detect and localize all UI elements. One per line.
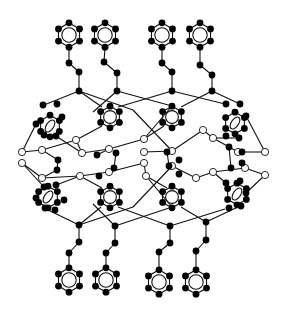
molecular-framework-diagram: [0, 0, 287, 312]
ring-atom: [54, 188, 61, 195]
ring-atom: [55, 38, 62, 45]
aromatic-ring-icon: [99, 273, 113, 287]
ring-atom: [91, 38, 98, 45]
filled-atom: [59, 114, 66, 121]
bond: [109, 139, 144, 149]
ring-atom: [112, 38, 119, 45]
filled-atom: [239, 149, 246, 156]
chain-atom: [159, 60, 166, 67]
ring-atom: [103, 264, 110, 271]
chain-atom: [114, 70, 121, 77]
filled-atom: [41, 132, 48, 139]
bond: [42, 140, 76, 150]
chain-atom: [169, 88, 176, 95]
bond: [206, 206, 240, 222]
chain-atom: [203, 219, 210, 226]
open-atom: [209, 134, 216, 141]
ring-atom: [66, 44, 73, 51]
aromatic-ring-icon: [98, 28, 112, 42]
filled-atom: [237, 101, 244, 108]
filled-atom: [176, 171, 183, 178]
open-atom: [140, 159, 147, 166]
ring-atom: [178, 199, 185, 206]
ring-atom: [232, 109, 239, 116]
chain-atom: [76, 88, 83, 95]
filled-atom: [239, 160, 246, 167]
aromatic-ring-icon: [193, 28, 207, 42]
filled-atom: [223, 101, 230, 108]
filled-atom: [33, 195, 40, 202]
aromatic-ring-icon: [155, 28, 169, 42]
ring-atom: [97, 108, 104, 115]
ring-atom: [107, 183, 114, 190]
ring-atom: [113, 283, 120, 290]
aromatic-ring-icon: [152, 275, 166, 289]
open-atom: [209, 168, 216, 175]
ring-atom: [55, 26, 62, 33]
ring-atom: [116, 188, 123, 195]
open-atom: [261, 148, 268, 155]
bond: [172, 130, 203, 151]
ring-atom: [159, 119, 166, 126]
ring-atom: [203, 273, 210, 280]
ring-atom: [116, 119, 123, 126]
ring-atom: [169, 26, 176, 33]
ring-atom: [113, 271, 120, 278]
bond: [213, 138, 238, 152]
ring-atom: [116, 199, 123, 206]
ring-atom: [186, 26, 193, 33]
chain-atom: [76, 222, 83, 229]
filled-atom: [223, 180, 230, 187]
aromatic-ring-icon: [189, 275, 203, 289]
ring-atom: [207, 38, 214, 45]
open-atom: [142, 172, 149, 179]
filled-atom: [94, 152, 101, 159]
filled-atom: [243, 113, 250, 120]
ring-atom: [107, 124, 114, 131]
aromatic-ring-icon: [166, 191, 179, 204]
open-atom: [140, 135, 147, 142]
filled-atom: [53, 133, 60, 140]
chain-atom: [209, 72, 216, 79]
open-atom: [199, 126, 206, 133]
bond: [79, 207, 101, 225]
filled-atom: [53, 182, 60, 189]
aromatic-ring-icon: [62, 273, 76, 287]
ring-atom: [55, 283, 62, 290]
ring-atom: [66, 264, 73, 271]
filled-atom: [41, 184, 48, 191]
ring-atom: [169, 103, 176, 110]
filled-atom: [61, 197, 68, 204]
chain-atom: [112, 240, 119, 247]
ring-atom: [178, 108, 185, 115]
ring-atom: [148, 38, 155, 45]
ring-atom: [197, 44, 204, 51]
ring-atom: [178, 119, 185, 126]
filled-atom: [237, 178, 244, 185]
ring-atom: [107, 204, 114, 211]
ring-atom: [203, 285, 210, 292]
open-atom: [18, 148, 25, 155]
bond: [80, 172, 109, 176]
linker-chain-layer: [69, 48, 212, 269]
chain-atom: [193, 248, 200, 255]
bond: [246, 116, 265, 152]
chain-atom: [112, 223, 119, 230]
ring-atom: [182, 285, 189, 292]
bond: [22, 124, 36, 152]
ring-atom: [92, 283, 99, 290]
ring-atom: [193, 291, 200, 298]
ring-atom: [66, 289, 73, 296]
aromatic-ring-icon: [43, 118, 57, 133]
ring-atom: [241, 125, 248, 132]
filled-atom: [223, 133, 230, 140]
open-atom: [192, 174, 199, 181]
ring-atom: [76, 271, 83, 278]
filled-atom: [113, 150, 120, 157]
ring-atom: [97, 199, 104, 206]
chain-atom: [114, 88, 121, 95]
ring-atom: [47, 112, 54, 119]
ring-atom: [169, 38, 176, 45]
ring-atom: [55, 271, 62, 278]
ring-atom: [76, 283, 83, 290]
